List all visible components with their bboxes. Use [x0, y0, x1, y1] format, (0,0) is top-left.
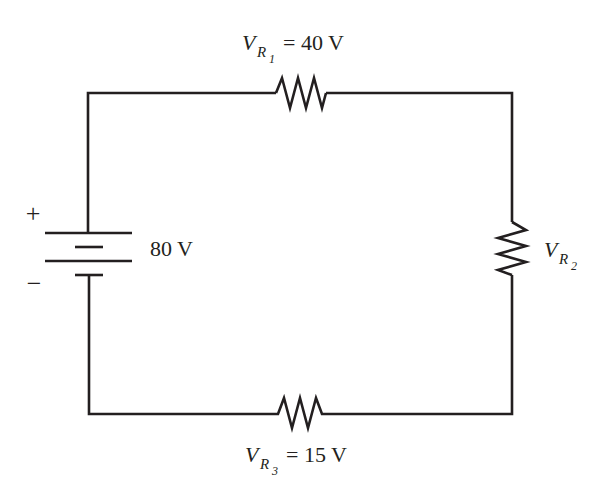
resistor-r1 [276, 78, 326, 108]
circuit-diagram: + − 80 V V R 1 = 40 V V R 2 V R 3 = 15 V [0, 0, 602, 498]
r2-label: V R 2 [544, 237, 577, 273]
resistor-r3 [276, 398, 326, 428]
svg-text:= 15 V: = 15 V [286, 442, 347, 467]
svg-text:V: V [544, 237, 560, 262]
svg-text:3: 3 [271, 464, 278, 478]
svg-text:1: 1 [269, 52, 275, 66]
svg-text:R: R [256, 44, 266, 60]
svg-text:V: V [245, 442, 261, 467]
wire-top [88, 93, 276, 233]
r1-label: V R 1 = 40 V [242, 30, 344, 66]
svg-text:= 40 V: = 40 V [283, 30, 344, 55]
resistor-r2 [498, 222, 526, 275]
svg-text:R: R [259, 456, 269, 472]
r3-label: V R 3 = 15 V [245, 442, 347, 478]
svg-text:V: V [242, 30, 258, 55]
negative-terminal-label: − [27, 269, 42, 298]
wire-bottom-left [89, 275, 276, 414]
positive-terminal-label: + [26, 199, 41, 228]
wire-right-bottom [326, 275, 512, 414]
svg-text:2: 2 [571, 259, 577, 273]
source-voltage-label: 80 V [150, 236, 193, 261]
wire-top-right [326, 93, 512, 222]
svg-text:R: R [558, 251, 568, 267]
